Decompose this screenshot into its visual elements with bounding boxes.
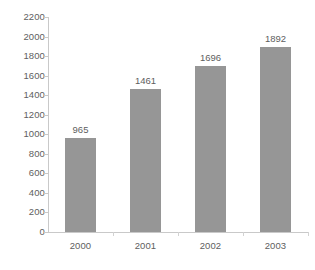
y-axis-tick-labels: 2200200018001600140012001000800600400200… <box>0 0 45 232</box>
x-axis-tick-mark <box>113 232 114 236</box>
x-axis-category-label: 2000 <box>48 240 113 252</box>
y-axis-tick-label: 1600 <box>0 71 45 81</box>
bar-group: 1696 <box>195 17 226 232</box>
x-axis-category-label: 2001 <box>113 240 178 252</box>
y-axis-tick-label: 200 <box>0 207 45 217</box>
bar[interactable] <box>260 47 291 232</box>
plot-area: 965146116961892 <box>48 17 308 232</box>
x-axis-category-labels: 2000200120022003 <box>48 240 308 256</box>
y-axis-tick-label: 1000 <box>0 129 45 139</box>
y-axis-tick-label: 1400 <box>0 90 45 100</box>
bar-chart: 2200200018001600140012001000800600400200… <box>0 0 315 270</box>
bar-value-label: 1461 <box>130 75 161 86</box>
bar[interactable] <box>65 138 96 232</box>
y-axis-tick-label: 2200 <box>0 12 45 22</box>
x-axis-tick-mark <box>243 232 244 236</box>
y-axis-tick-label: 2000 <box>0 32 45 42</box>
bar-value-label: 1892 <box>260 33 291 44</box>
bar-value-label: 1696 <box>195 52 226 63</box>
x-axis-tick-mark <box>178 232 179 236</box>
bar-group: 1461 <box>130 17 161 232</box>
x-axis-category-label: 2002 <box>178 240 243 252</box>
bar-group: 965 <box>65 17 96 232</box>
bar[interactable] <box>195 66 226 232</box>
bar-value-label: 965 <box>65 124 96 135</box>
y-axis-tick-label: 800 <box>0 149 45 159</box>
bar[interactable] <box>130 89 161 232</box>
x-axis-category-label: 2003 <box>243 240 308 252</box>
y-axis-tick-label: 1800 <box>0 51 45 61</box>
x-axis-tick-mark <box>308 232 309 236</box>
y-axis-tick-label: 600 <box>0 168 45 178</box>
bar-group: 1892 <box>260 17 291 232</box>
y-axis-tick-label: 400 <box>0 188 45 198</box>
y-axis-tick-label: 0 <box>0 227 45 237</box>
y-axis-tick-label: 1200 <box>0 110 45 120</box>
